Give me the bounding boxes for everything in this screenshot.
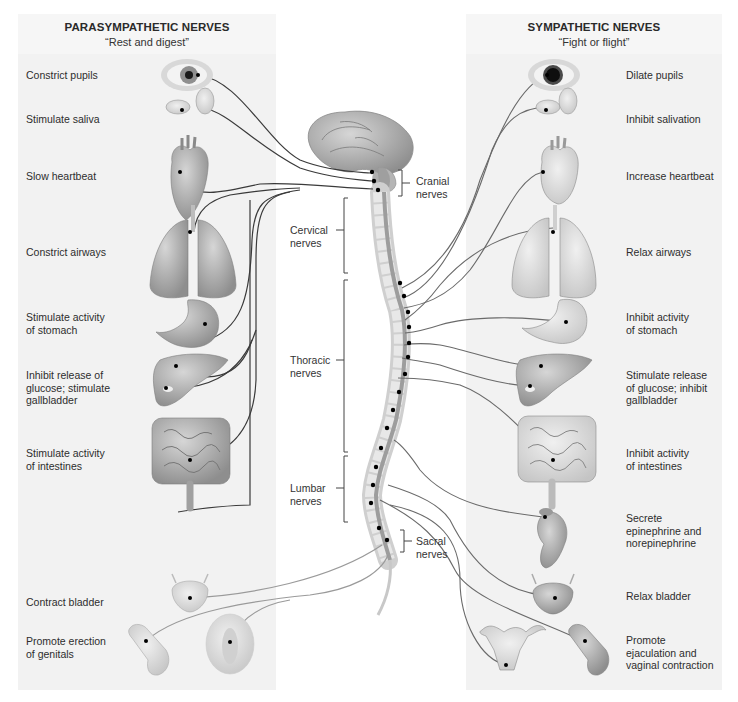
left-lungs-icon <box>150 205 236 298</box>
symp-label-intestines: Inhibit activity of intestines <box>626 447 689 472</box>
left-liver-icon <box>153 354 228 406</box>
symp-label-bladder: Relax bladder <box>626 590 691 603</box>
right-heart-icon <box>541 136 578 204</box>
left-salivary-glands-icon <box>166 88 214 114</box>
right-liver-icon <box>516 354 592 406</box>
para-label-intestines: Stimulate activity of intestines <box>26 447 105 472</box>
para-label-liver: Inhibit release of glucose; stimulate ga… <box>26 369 110 407</box>
symp-label-heart: Increase heartbeat <box>626 170 714 183</box>
right-stomach-icon <box>522 299 587 343</box>
symp-label-adrenal: Secrete epinephrine and norepinephrine <box>626 512 701 550</box>
symp-label-lungs: Relax airways <box>626 246 691 259</box>
symp-label-saliva: Inhibit salivation <box>626 113 701 126</box>
symp-label-genitals: Promote ejaculation and vaginal contract… <box>626 634 714 672</box>
right-uterus-icon <box>480 626 546 670</box>
para-label-lungs: Constrict airways <box>26 246 106 259</box>
right-kidney-adrenal-icon <box>538 508 567 568</box>
left-eye-icon <box>161 59 213 91</box>
para-label-genitals: Promote erection of genitals <box>26 635 106 660</box>
left-intestines-icon <box>152 418 230 508</box>
right-bladder-icon <box>532 574 574 614</box>
right-eye-icon <box>528 59 580 91</box>
left-heart-icon <box>171 135 208 220</box>
symp-label-liver: Stimulate release of glucose; inhibit ga… <box>626 369 707 407</box>
symp-label-eye: Dilate pupils <box>626 69 683 82</box>
para-label-heart: Slow heartbeat <box>26 170 96 183</box>
lumbar-nerves-label: Lumbar nerves <box>290 482 326 507</box>
left-penis-icon <box>129 624 169 675</box>
para-label-eye: Constrict pupils <box>26 69 98 82</box>
sacral-nerves-label: Sacral nerves <box>416 535 448 560</box>
symp-label-stomach: Inhibit activity of stomach <box>626 311 689 336</box>
right-intestines-icon <box>518 416 596 506</box>
cranial-nerves-label: Cranial nerves <box>416 175 449 200</box>
right-salivary-glands-icon <box>536 88 577 114</box>
right-lungs-icon <box>512 205 596 298</box>
spinal-cord-icon <box>372 192 405 615</box>
thoracic-nerves-label: Thoracic nerves <box>290 354 330 379</box>
cervical-nerves-label: Cervical nerves <box>290 224 328 249</box>
para-label-bladder: Contract bladder <box>26 596 104 609</box>
brain-icon <box>308 111 413 195</box>
left-stomach-icon <box>156 300 219 348</box>
para-label-saliva: Stimulate saliva <box>26 113 100 126</box>
para-label-stomach: Stimulate activity of stomach <box>26 311 105 336</box>
left-bladder-icon <box>172 574 208 612</box>
right-penis-icon <box>569 624 609 675</box>
